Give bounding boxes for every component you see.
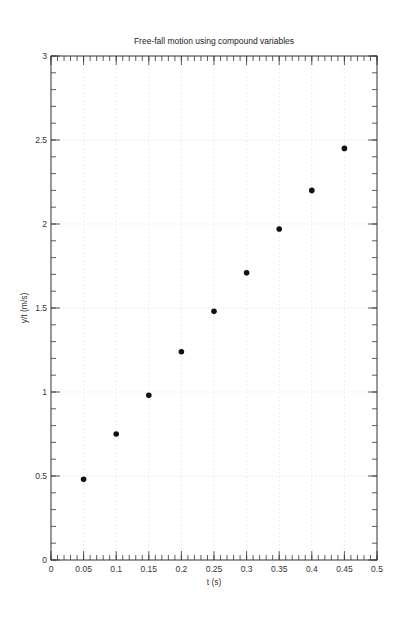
- x-tick-label: 0.2: [175, 564, 187, 574]
- data-point: [342, 146, 348, 152]
- y-tick-label: 3: [42, 51, 47, 61]
- data-point: [244, 270, 250, 276]
- y-tick-label: 1.5: [35, 303, 47, 313]
- y-tick-label: 0.5: [35, 471, 47, 481]
- data-point: [309, 188, 315, 194]
- y-tick-label: 0: [42, 555, 47, 565]
- x-tick-label: 0.3: [241, 564, 253, 574]
- x-axis-tick-labels: 00.050.10.150.20.250.30.350.40.450.5: [49, 564, 384, 574]
- x-tick-label: 0: [49, 564, 54, 574]
- data-point: [211, 309, 217, 315]
- y-axis-tick-labels: 00.511.522.53: [35, 51, 47, 565]
- x-tick-label: 0.25: [206, 564, 223, 574]
- y-tick-label: 2.5: [35, 135, 47, 145]
- x-tick-label: 0.1: [110, 564, 122, 574]
- chart-title: Free-fall motion using compound variable…: [134, 36, 294, 46]
- x-tick-label: 0.05: [75, 564, 92, 574]
- x-axis-label: t (s): [207, 577, 222, 587]
- data-point: [179, 349, 185, 355]
- scatter-chart: Free-fall motion using compound variable…: [0, 0, 397, 617]
- data-point: [81, 477, 87, 483]
- y-tick-label: 1: [42, 387, 47, 397]
- y-axis-label: y/t (m/s): [19, 292, 29, 323]
- data-point: [276, 226, 282, 232]
- x-tick-label: 0.45: [336, 564, 353, 574]
- x-tick-label: 0.15: [141, 564, 158, 574]
- x-tick-label: 0.5: [371, 564, 383, 574]
- x-tick-label: 0.4: [306, 564, 318, 574]
- data-point: [146, 393, 152, 399]
- grid-lines: [51, 56, 377, 560]
- data-point: [113, 431, 119, 437]
- y-tick-label: 2: [42, 219, 47, 229]
- x-tick-label: 0.35: [271, 564, 288, 574]
